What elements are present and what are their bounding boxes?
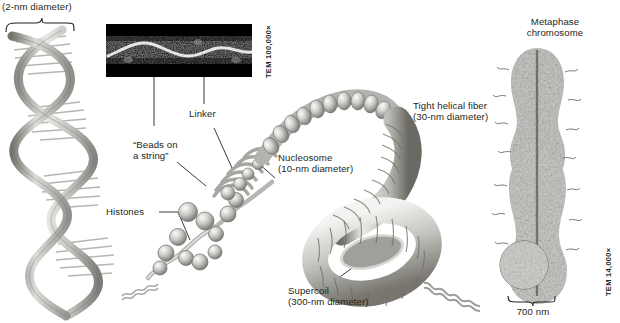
tem-micrograph-inset [106, 24, 252, 77]
label-tem-magnification-right: TEM 14,000× [604, 248, 613, 296]
label-metaphase-chromosome: Metaphase chromosome [509, 16, 601, 39]
label-tight-helical-fiber: Tight helical fiber (30-nm diameter) [413, 100, 488, 123]
metaphase-chromosome-illustration [492, 40, 582, 306]
label-histones: Histones [106, 206, 144, 217]
label-dna-diameter: (2-nm diameter) [2, 1, 72, 12]
label-scale-bar: 700 nm [509, 306, 557, 317]
label-nucleosome: Nucleosome (10-nm diameter) [278, 152, 353, 175]
beads-on-a-string-illustration [122, 149, 276, 300]
callout-circle-icon [500, 241, 548, 289]
label-supercoil: Supercoil (300-nm diameter) [288, 285, 369, 308]
dna-double-helix-illustration [6, 18, 114, 316]
label-tem-magnification-top: TEM 100,000× [264, 25, 273, 78]
label-linker: Linker [189, 108, 216, 119]
supercoil-illustration [305, 120, 480, 311]
label-beads-on-a-string: “Beads on a string” [133, 139, 178, 162]
dna-packing-figure: (2-nm diameter) TEM 100,000× Linker “Bea… [0, 0, 620, 323]
tight-helical-fiber-illustration [260, 92, 404, 158]
